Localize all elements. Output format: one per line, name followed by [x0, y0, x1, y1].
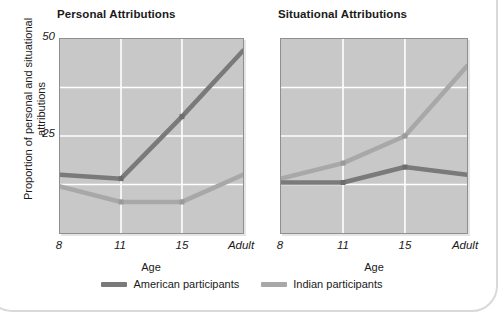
x-tick-label-8-situational: 8 [277, 239, 283, 251]
panel-situational-attributions: Situational Attributions [250, 0, 484, 294]
x-tick-label-15-personal: 15 [176, 239, 189, 251]
legend-swatch-indian-icon [261, 282, 287, 287]
panel-title-personal: Personal Attributions [57, 8, 176, 20]
series-line-indian-personal [60, 175, 243, 205]
x-tick-label-15-situational: 15 [399, 239, 412, 251]
plot-svg-situational [281, 39, 467, 233]
x-tick-label-11-personal: 11 [114, 239, 126, 251]
legend-item-indian: Indian participants [261, 278, 382, 290]
legend-swatch-american-icon [101, 282, 127, 287]
legend-label-indian: Indian participants [293, 278, 382, 290]
x-tick-label-11-situational: 11 [337, 239, 349, 251]
panel-title-situational: Situational Attributions [278, 8, 407, 20]
x-axis-title-personal: Age [141, 261, 161, 273]
chart-legend: American participants Indian participant… [0, 278, 484, 290]
series-line-american-personal [60, 51, 243, 181]
x-tick-label-8-personal: 8 [56, 239, 62, 251]
plot-area-personal [59, 38, 244, 234]
x-tick-label-adult-situational: Adult [452, 239, 478, 251]
x-axis-title-situational: Age [364, 261, 384, 273]
gridlines-horizontal-personal [60, 88, 243, 185]
panel-personal-attributions: Personal Attributions [0, 0, 250, 294]
plot-area-situational [280, 38, 468, 234]
series-line-indian-situational [281, 66, 467, 179]
plot-svg-personal [60, 39, 243, 233]
legend-item-american: American participants [101, 278, 239, 290]
legend-label-american: American participants [133, 278, 239, 290]
series-line-american-situational [281, 165, 467, 185]
